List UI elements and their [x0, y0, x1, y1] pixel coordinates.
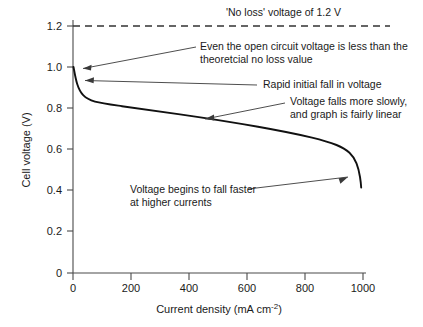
rapid-fall-annotation-line1: Rapid initial fall in voltage [263, 78, 382, 90]
y-tick-label-0: 0 [56, 267, 62, 279]
faster-fall-leader-line [248, 177, 348, 189]
x-tick-label-800: 800 [296, 282, 314, 294]
x-tick-label-0: 0 [70, 282, 76, 294]
y-tick-label-1-0: 1.0 [47, 61, 62, 73]
faster-fall-annotation-line1: Voltage begins to fall faster [130, 183, 257, 195]
faster-fall-arrowhead-icon [339, 177, 348, 184]
no-loss-annotation-text: 'No loss' voltage of 1.2 V [226, 6, 341, 18]
x-axis-title: Current density (mA cm-2) [156, 302, 282, 315]
x-tick-label-400: 400 [180, 282, 198, 294]
faster-fall-annotation-line2: at higher currents [130, 196, 212, 208]
y-tick-label-0-4: 0.4 [47, 184, 62, 196]
x-axis-tick-labels: 0 200 400 600 800 1000 [70, 282, 375, 294]
rapid-fall-leader-line [85, 81, 257, 86]
x-axis-title-main: Current density (mA cm [156, 303, 271, 315]
open-circuit-annotation-group: Even the open circuit voltage is less th… [83, 40, 408, 71]
rapid-fall-arrowhead-icon [85, 77, 94, 83]
open-circuit-annotation-line2: theoretcial no loss value [200, 53, 313, 65]
open-circuit-annotation-line1: Even the open circuit voltage is less th… [200, 40, 408, 52]
rapid-fall-annotation-group: Rapid initial fall in voltage [85, 77, 382, 90]
open-circuit-leader-line [83, 47, 196, 69]
y-axis-title: Cell voltage (V) [20, 112, 32, 187]
linear-region-annotation-group: Voltage falls more slowly, and graph is … [205, 95, 407, 121]
x-axis-ticks [73, 273, 363, 280]
linear-region-leader-line [205, 103, 285, 119]
linear-region-annotation-line1: Voltage falls more slowly, [290, 95, 407, 107]
x-tick-label-1000: 1000 [351, 282, 375, 294]
y-axis-tick-labels: 1.2 1.0 0.8 0.6 0.4 0.2 0 [47, 20, 62, 279]
y-tick-label-0-2: 0.2 [47, 225, 62, 237]
chart-page: 1.2 1.0 0.8 0.6 0.4 0.2 0 0 200 400 600 … [0, 0, 423, 327]
x-tick-label-200: 200 [122, 282, 140, 294]
x-axis-title-tail: ) [278, 303, 282, 315]
y-tick-label-0-8: 0.8 [47, 102, 62, 114]
y-tick-label-1-2: 1.2 [47, 20, 62, 32]
x-tick-label-600: 600 [238, 282, 256, 294]
faster-fall-annotation-group: Voltage begins to fall faster at higher … [130, 177, 348, 208]
y-axis-ticks [67, 26, 73, 273]
linear-region-annotation-line2: and graph is fairly linear [290, 108, 402, 120]
fuel-cell-polarization-chart: 1.2 1.0 0.8 0.6 0.4 0.2 0 0 200 400 600 … [0, 0, 423, 327]
y-tick-label-0-6: 0.6 [47, 143, 62, 155]
open-circuit-arrowhead-icon [83, 65, 92, 71]
